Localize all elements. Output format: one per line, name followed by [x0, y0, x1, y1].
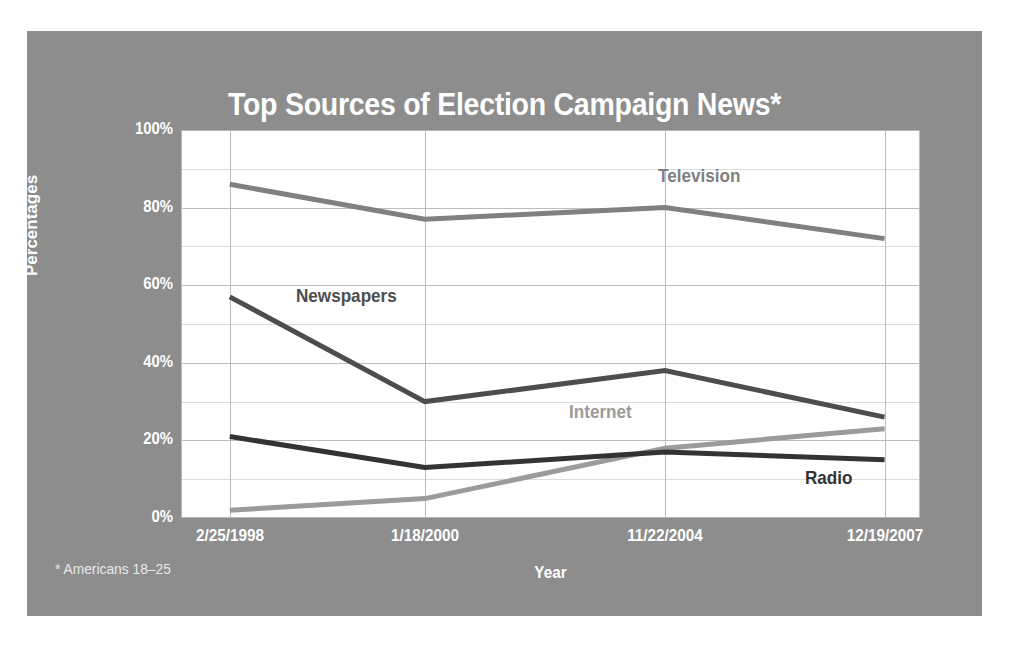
series-canvas: [181, 130, 920, 518]
y-axis-title: Percentages: [22, 175, 42, 276]
x-tick-label: 1/18/2000: [339, 526, 510, 546]
x-axis-title: Year: [218, 563, 883, 583]
y-tick-label: 100%: [108, 120, 173, 138]
x-tick-label: 11/22/2004: [580, 526, 751, 546]
y-tick-label: 80%: [108, 198, 173, 216]
series-lines: [230, 184, 885, 510]
x-axis-tick-labels: 2/25/19981/18/200011/22/200412/19/2007: [181, 526, 920, 552]
chart-title: Top Sources of Election Campaign News*: [65, 87, 944, 123]
y-axis-tick-labels: 0%20%40%60%80%100%: [99, 130, 173, 518]
plot-area: TelevisionNewspapersInternetRadio: [181, 130, 920, 518]
footnote: * Americans 18–25: [55, 560, 171, 577]
x-tick-label: 12/19/2007: [799, 526, 970, 546]
chart-figure: Top Sources of Election Campaign News* P…: [0, 0, 1029, 653]
chart-panel: Top Sources of Election Campaign News* P…: [27, 31, 982, 616]
y-tick-label: 40%: [108, 353, 173, 371]
x-tick-label: 2/25/1998: [144, 526, 315, 546]
y-tick-label: 0%: [108, 508, 173, 526]
y-tick-label: 20%: [108, 430, 173, 448]
y-tick-label: 60%: [108, 275, 173, 293]
